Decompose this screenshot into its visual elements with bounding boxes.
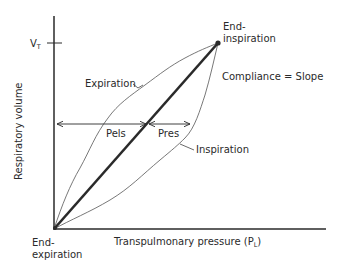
inspiration-leader xyxy=(180,144,194,150)
end-inspiration-label: End- inspiration xyxy=(223,21,276,44)
vt-label: VT xyxy=(30,38,41,51)
end-expiration-label: End- expiration xyxy=(32,237,82,260)
expiration-label: Expiration xyxy=(85,78,136,89)
x-axis-label: Transpulmonary pressure (PL) xyxy=(113,236,261,249)
pres-label: Pres xyxy=(158,128,179,139)
end-inspiration-point xyxy=(215,40,220,45)
compliance-line xyxy=(54,43,218,229)
end-expiration-point xyxy=(53,226,57,230)
compliance-label: Compliance = Slope xyxy=(222,71,323,82)
pels-label: Pels xyxy=(106,128,126,139)
inspiration-label: Inspiration xyxy=(196,144,249,155)
y-axis-label: Respiratory volume xyxy=(13,82,24,180)
pressure-volume-diagram: VT Pels Pres Expiration Inspiration End-… xyxy=(0,0,338,271)
